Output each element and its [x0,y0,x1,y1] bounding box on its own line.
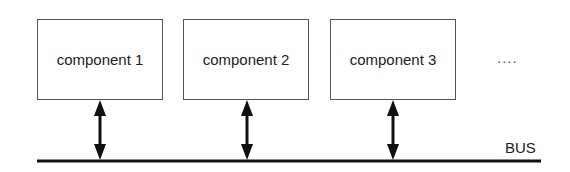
bus-label: BUS [505,139,536,156]
component-box-1: component 1 [37,19,163,100]
component-label-3: component 3 [350,51,437,68]
bidirectional-arrow-1 [94,100,106,160]
bidirectional-arrow-2 [241,100,253,160]
ellipsis-more-components: .... [497,49,518,66]
component-box-3: component 3 [330,19,456,100]
component-box-2: component 2 [183,19,309,100]
component-label-1: component 1 [57,51,144,68]
bidirectional-arrow-3 [387,100,399,160]
component-label-2: component 2 [203,51,290,68]
